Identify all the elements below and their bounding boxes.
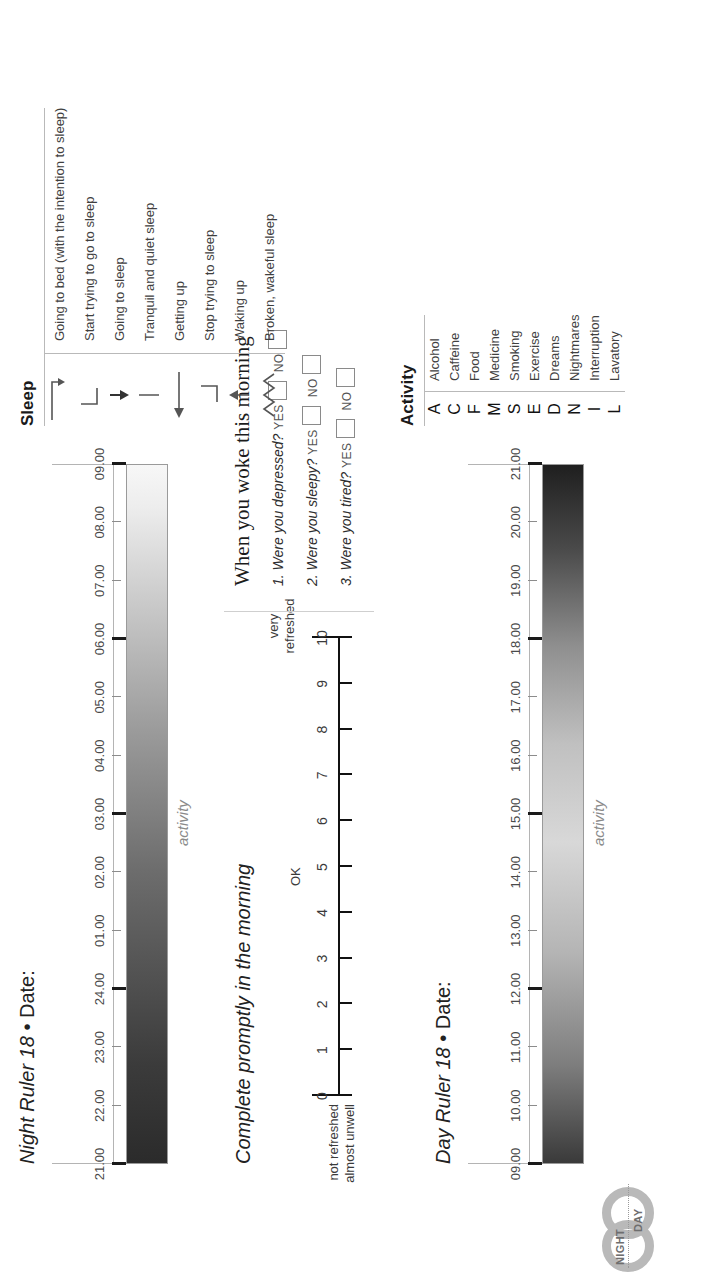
scale-number[interactable]: 7	[314, 772, 330, 780]
question-number: 3.	[338, 570, 354, 586]
activity-legend-code: A	[425, 392, 446, 427]
scale-number[interactable]: 3	[314, 955, 330, 963]
scale-tick[interactable]	[338, 911, 352, 913]
no-checkbox[interactable]	[302, 355, 321, 374]
activity-legend-row: DDreams	[545, 315, 565, 426]
activity-legend-label: Alcohol	[425, 315, 446, 392]
hour-tick-minor	[528, 1046, 537, 1047]
no-label: NO	[340, 391, 354, 410]
hour-tick-minor	[528, 871, 537, 872]
scale-number[interactable]: 1	[314, 1046, 330, 1054]
hour-tick-minor	[528, 521, 537, 522]
sleep-legend-table: Going to bed (with the intention to slee…	[44, 108, 285, 426]
hour-label: 06.00	[92, 623, 107, 656]
scale-tick[interactable]	[338, 1048, 352, 1050]
hour-label: 04.00	[92, 739, 107, 772]
hour-tick-minor	[112, 871, 121, 872]
hour-tick-minor	[528, 755, 537, 756]
logo-night-label: NIGHT	[614, 1229, 626, 1265]
sleep-legend-label: Getting up	[165, 108, 195, 354]
scale-anchor-mid: OK	[288, 867, 304, 886]
scale-number[interactable]: 5	[314, 863, 330, 871]
sleep-legend-label: Stop trying to sleep	[195, 108, 225, 354]
activity-legend-row: MMedicine	[485, 315, 505, 426]
sleep-legend-row: Getting up	[165, 108, 195, 426]
sleep-legend-title: Sleep	[18, 108, 38, 426]
hour-label: 23.00	[92, 1031, 107, 1064]
scale-number[interactable]: 4	[314, 909, 330, 917]
activity-legend-code: N	[565, 392, 585, 427]
night-activity-gradient-bar[interactable]	[126, 464, 168, 1164]
quiz-divider	[224, 611, 374, 612]
no-checkbox[interactable]	[336, 368, 355, 387]
sleep-legend-label: Tranquil and quiet sleep	[135, 108, 165, 354]
hour-tick-major	[528, 637, 542, 640]
activity-legend-label: Lavatory	[605, 315, 625, 392]
scale-tick[interactable]	[338, 773, 352, 775]
question-text: Were you depressed?	[270, 430, 286, 571]
scale-number[interactable]: 0	[314, 1092, 330, 1100]
scale-tick[interactable]	[338, 682, 352, 684]
scale-number[interactable]: 2	[314, 1001, 330, 1009]
hour-label: 20.00	[508, 506, 523, 539]
day-ruler-date-label: Date:	[432, 981, 454, 1029]
yes-checkbox[interactable]	[302, 406, 321, 425]
hour-tick-minor	[528, 1105, 537, 1106]
activity-legend-label: Exercise	[525, 315, 545, 392]
yes-label: YES	[306, 429, 320, 455]
activity-legend-label: Medicine	[485, 315, 505, 392]
activity-legend-code: E	[525, 392, 545, 427]
hour-label: 22.00	[92, 1089, 107, 1122]
hour-tick-minor	[112, 755, 121, 756]
hour-tick-major	[112, 987, 126, 990]
night-ruler-title: Night Ruler 18 • Date:	[16, 970, 39, 1164]
activity-legend-label: Nightmares	[565, 315, 585, 392]
scale-number[interactable]: 10	[314, 630, 330, 646]
question-row: 3. Were you tired? YESNO	[336, 359, 355, 586]
scale-anchor-low-line1: not refreshed	[326, 1104, 342, 1208]
hour-label: 24.00	[92, 973, 107, 1006]
activity-legend-row: FFood	[465, 315, 485, 426]
scale-number[interactable]: 9	[314, 680, 330, 688]
sleep-legend-row: Start trying to go to sleep	[75, 108, 105, 426]
hour-label: 11.00	[508, 1032, 523, 1064]
scale-anchor-low: not refreshed almost unwell	[326, 1104, 359, 1208]
scale-anchor-low-line2: almost unwell	[342, 1104, 358, 1208]
day-ruler-bullet: •	[432, 1035, 454, 1042]
vertical-line-icon	[138, 368, 163, 422]
arrow-down-right-icon	[48, 368, 73, 422]
scale-tick[interactable]	[338, 1094, 352, 1096]
hour-tick-major	[112, 1162, 126, 1165]
night-ruler-title-text: Night Ruler 18	[16, 1036, 38, 1164]
scale-anchor-high-line1: very	[266, 586, 282, 666]
scale-tick[interactable]	[338, 819, 352, 821]
day-ruler-title-text: Day Ruler 18	[432, 1047, 454, 1164]
hour-label: 01.00	[92, 914, 107, 947]
yes-checkbox[interactable]	[336, 419, 355, 438]
scale-tick[interactable]	[338, 865, 352, 867]
activity-legend-code: F	[465, 392, 485, 427]
hour-tick-minor	[528, 930, 537, 931]
sleep-diary-sheet: NIGHT DAY Night Ruler 18 • Date: 21.0022…	[0, 0, 706, 1286]
hour-tick-minor	[112, 930, 121, 931]
scale-tick[interactable]	[338, 1002, 352, 1004]
refreshment-scale[interactable]: 012345678910 not refreshed almost unwell…	[292, 626, 382, 1096]
activity-legend-title: Activity	[398, 315, 418, 426]
hour-tick-major	[112, 637, 126, 640]
question-text: Were you sleepy?	[304, 455, 320, 571]
sleep-legend-label: Going to sleep	[105, 108, 135, 354]
scale-tick[interactable]	[338, 957, 352, 959]
scale-tick[interactable]	[338, 636, 352, 638]
hour-label: 15.00	[508, 798, 523, 831]
sleep-legend-row: Going to bed (with the intention to slee…	[45, 108, 76, 426]
hour-label: 09.00	[92, 448, 107, 481]
activity-legend-label: Food	[465, 315, 485, 392]
scale-number[interactable]: 6	[314, 817, 330, 825]
hour-label: 13.00	[508, 914, 523, 947]
activity-legend-label: Caffeine	[445, 315, 465, 392]
sleep-legend-label: Broken, wakeful sleep	[255, 108, 285, 354]
sleep-legend-row: Broken, wakeful sleep	[255, 108, 285, 426]
scale-number[interactable]: 8	[314, 726, 330, 734]
scale-tick[interactable]	[338, 728, 352, 730]
day-activity-gradient-bar[interactable]	[542, 464, 584, 1164]
